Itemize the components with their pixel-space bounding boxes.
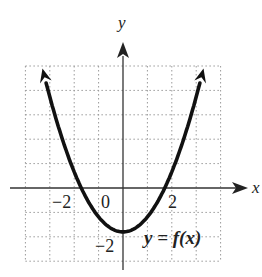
x-tick-label-pos2: 2 (168, 192, 177, 212)
x-axis-label: x (251, 178, 260, 197)
origin-label: 0 (101, 192, 110, 212)
y-tick-label-neg2: −2 (95, 236, 114, 256)
graph: y x −2 0 2 −2 y = f(x) (0, 0, 262, 277)
x-tick-label-neg2: −2 (52, 192, 71, 212)
y-axis-arrow-icon (117, 42, 129, 58)
y-axis-label: y (116, 13, 126, 32)
curve-label: y = f(x) (142, 227, 201, 249)
